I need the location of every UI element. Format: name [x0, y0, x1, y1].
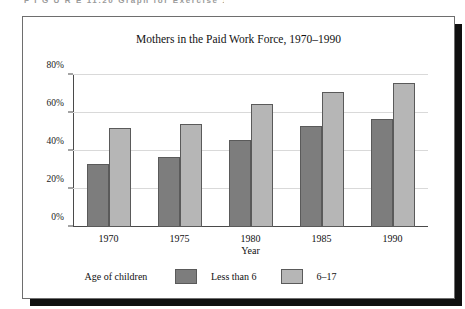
chart-title: Mothers in the Paid Work Force, 1970–199…	[23, 33, 454, 45]
figure-caption-strip: F I G U R E 11.20 Graph for Exercise 11.…	[24, 0, 224, 9]
legend-entry: 6–17	[281, 269, 361, 284]
bar-group: 1970	[87, 75, 131, 227]
x-axis-title: Year	[73, 245, 428, 256]
legend-title: Age of children	[57, 271, 175, 282]
figure-caption-text: F I G U R E 11.20 Graph for Exercise 11.…	[24, 0, 224, 5]
y-tick-label: 0%	[51, 212, 73, 222]
x-tick-label: 1975	[170, 233, 190, 244]
figure-card: Mothers in the Paid Work Force, 1970–199…	[22, 16, 455, 299]
y-tick-label: 80%	[47, 60, 73, 70]
x-tick-label: 1980	[241, 233, 261, 244]
chart-legend: Age of children Less than 66–17	[57, 261, 422, 291]
bar-1985-series2	[322, 92, 344, 227]
bar-1975-series1	[158, 157, 180, 227]
plot-area: 0%20%40%60%80% 19701975198019851990	[73, 75, 428, 227]
bar-1975-series2	[180, 124, 202, 227]
legend-swatch	[281, 269, 303, 284]
bar-1980-series2	[251, 104, 273, 228]
bar-1970-series1	[87, 164, 109, 227]
legend-entries: Less than 66–17	[175, 269, 361, 284]
bar-group: 1975	[158, 75, 202, 227]
legend-label: Less than 6	[211, 271, 257, 282]
bar-1990-series2	[393, 83, 415, 227]
bar-groups: 19701975198019851990	[73, 75, 428, 227]
bar-1970-series2	[109, 128, 131, 227]
legend-swatch	[175, 269, 197, 284]
bar-1985-series1	[300, 126, 322, 227]
y-tick-label: 60%	[47, 98, 73, 108]
y-tick-label: 40%	[47, 136, 73, 146]
bar-1990-series1	[371, 119, 393, 227]
y-tick-label: 20%	[47, 174, 73, 184]
x-tick-label: 1990	[383, 233, 403, 244]
bar-group: 1990	[371, 75, 415, 227]
bar-group: 1985	[300, 75, 344, 227]
legend-label: 6–17	[317, 271, 337, 282]
legend-entry: Less than 6	[175, 269, 281, 284]
bar-group: 1980	[229, 75, 273, 227]
x-tick-label: 1970	[99, 233, 119, 244]
x-tick-label: 1985	[312, 233, 332, 244]
bar-1980-series1	[229, 140, 251, 227]
